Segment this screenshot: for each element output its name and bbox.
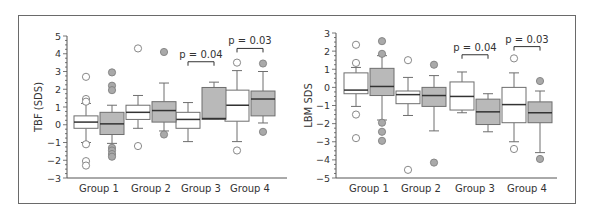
outlier-point <box>134 45 141 52</box>
box-shaded-group-1 <box>100 69 124 161</box>
y-tick-label: −2 <box>316 118 330 129</box>
y-tick-label: 0 <box>55 119 61 130</box>
outlier-point <box>352 59 359 66</box>
y-tick-label: −5 <box>316 173 330 184</box>
tbf-boxplot-panel: −3−2−1012345TBF (SDS)Group 1Group 2Group… <box>33 31 287 195</box>
iqr-box <box>152 102 176 122</box>
outlier-point <box>430 159 437 166</box>
outlier-point <box>378 137 385 144</box>
box-open-group-3 <box>450 72 474 113</box>
box-open-group-4 <box>502 55 526 153</box>
p-value-label: p = 0.03 <box>505 34 548 45</box>
outlier-point <box>259 60 266 67</box>
outlier-point <box>536 155 543 162</box>
p-value-label: p = 0.04 <box>453 42 496 53</box>
x-category-label: Group 2 <box>401 183 441 194</box>
y-tick-label: 5 <box>55 31 61 42</box>
y-tick-label: −4 <box>316 154 330 165</box>
outlier-point <box>510 55 517 62</box>
significance-bracket <box>237 48 263 52</box>
box-shaded-group-3 <box>476 94 500 132</box>
outlier-point <box>233 147 240 154</box>
outlier-point <box>108 87 115 94</box>
outlier-point <box>378 128 385 135</box>
box-shaded-group-2 <box>152 48 176 138</box>
y-tick-label: 0 <box>324 82 330 93</box>
p-value-label: p = 0.04 <box>179 49 222 60</box>
box-open-group-4 <box>225 59 249 154</box>
y-axis-label: TBF (SDS) <box>33 82 44 133</box>
outlier-point <box>233 59 240 66</box>
x-category-label: Group 3 <box>455 183 495 194</box>
outlier-point <box>352 41 359 48</box>
box-open-group-2 <box>126 45 150 150</box>
iqr-box <box>176 112 200 128</box>
x-category-label: Group 1 <box>349 183 389 194</box>
outlier-point <box>404 57 411 64</box>
x-category-label: Group 4 <box>507 183 547 194</box>
iqr-box <box>370 68 394 95</box>
x-category-label: Group 3 <box>181 183 221 194</box>
outlier-point <box>82 98 89 105</box>
outlier-point <box>259 128 266 135</box>
box-open-group-1 <box>344 41 368 142</box>
y-tick-label: 4 <box>55 48 61 59</box>
boxplot-figure: −3−2−1012345TBF (SDS)Group 1Group 2Group… <box>0 0 591 220</box>
x-category-label: Group 4 <box>230 183 270 194</box>
y-tick-label: −1 <box>47 137 61 148</box>
y-tick-label: −1 <box>316 100 330 111</box>
box-shaded-group-3 <box>202 82 226 119</box>
y-tick-label: −3 <box>47 173 61 184</box>
box-open-group-2 <box>396 57 420 174</box>
y-tick-label: 2 <box>55 84 61 95</box>
outlier-point <box>430 61 437 68</box>
box-shaded-group-1 <box>370 38 394 145</box>
lbm-boxplot-panel: −5−4−3−2−10123LBM SDSGroup 1Group 2Group… <box>303 28 557 195</box>
outlier-point <box>160 48 167 55</box>
box-shaded-group-2 <box>422 61 446 166</box>
iqr-box <box>396 91 420 104</box>
y-tick-label: −3 <box>316 136 330 147</box>
p-value-label: p = 0.03 <box>228 35 271 46</box>
y-tick-label: 3 <box>324 28 330 39</box>
outlier-point <box>134 142 141 149</box>
outlier-point <box>536 77 543 84</box>
y-tick-label: 1 <box>55 102 61 113</box>
significance-bracket <box>514 47 540 51</box>
x-category-label: Group 1 <box>79 183 119 194</box>
y-axis-label: LBM SDS <box>303 83 314 128</box>
outlier-point <box>352 111 359 118</box>
y-tick-label: 3 <box>55 66 61 77</box>
box-shaded-group-4 <box>528 77 552 162</box>
outlier-point <box>510 145 517 152</box>
outlier-point <box>378 119 385 126</box>
outlier-point <box>82 162 89 169</box>
box-open-group-1 <box>74 73 98 169</box>
y-tick-label: 1 <box>324 64 330 75</box>
outlier-point <box>82 141 89 148</box>
x-category-label: Group 2 <box>131 183 171 194</box>
outlier-point <box>378 38 385 45</box>
outlier-point <box>378 50 385 57</box>
iqr-box <box>251 91 275 116</box>
outlier-point <box>82 73 89 80</box>
outlier-point <box>108 153 115 160</box>
iqr-box <box>422 87 446 106</box>
y-tick-label: −2 <box>47 155 61 166</box>
outlier-point <box>108 69 115 76</box>
y-tick-label: 2 <box>324 46 330 57</box>
box-shaded-group-4 <box>251 60 275 136</box>
outlier-point <box>160 131 167 138</box>
significance-bracket <box>188 62 214 66</box>
iqr-box <box>202 87 226 119</box>
box-open-group-3 <box>176 103 200 142</box>
outlier-point <box>404 166 411 173</box>
significance-bracket <box>462 55 488 59</box>
outlier-point <box>352 135 359 142</box>
